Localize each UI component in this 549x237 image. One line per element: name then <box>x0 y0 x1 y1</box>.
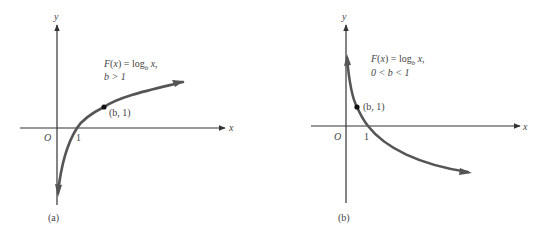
function-label-b: F(x) = logb x, <box>370 53 425 67</box>
curve-arrow-down-a <box>55 184 62 197</box>
curve-arrow-up-b <box>344 54 351 66</box>
condition-label-b: 0 < b < 1 <box>371 67 410 78</box>
panel-a: y x O 1 (b, 1) F(x) = logb x, b > 1 (a) <box>20 11 234 224</box>
condition-label-a: b > 1 <box>104 71 126 82</box>
curve-arrow-right-b <box>459 168 472 175</box>
point-label-a: (b, 1) <box>109 107 131 119</box>
panel-label-a: (a) <box>48 212 59 224</box>
panel-label-b: (b) <box>338 212 350 224</box>
y-axis-label-b: y <box>341 11 347 22</box>
origin-label-a: O <box>44 132 51 143</box>
point-b1-b <box>354 104 359 109</box>
x-axis-label-b: x <box>522 121 528 132</box>
figure: y x O 1 (b, 1) F(x) = logb x, b > 1 (a) … <box>0 0 549 237</box>
x-tick-1-a: 1 <box>76 132 81 143</box>
point-b1-a <box>101 104 106 109</box>
point-label-b: (b, 1) <box>363 101 385 113</box>
x-tick-1-b: 1 <box>364 131 369 142</box>
panel-b: y x O 1 (b, 1) F(x) = logb x, 0 < b < 1 … <box>311 11 528 224</box>
y-axis-label-a: y <box>53 11 59 22</box>
function-label-a: F(x) = logb x, <box>103 58 158 72</box>
origin-label-b: O <box>334 131 341 142</box>
x-axis-label-a: x <box>228 122 234 133</box>
